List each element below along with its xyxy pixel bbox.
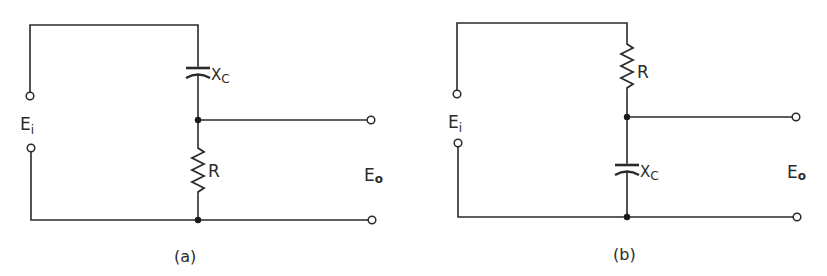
input-top-wire — [30, 25, 198, 92]
figure-caption-a: (a) — [174, 247, 196, 266]
output-terminal-bottom — [368, 216, 376, 224]
input-terminal-bottom — [454, 139, 462, 147]
capacitive-reactance-label: XC — [211, 66, 230, 86]
junction-node-top — [195, 117, 201, 123]
circuit-a: Ei XC R Eo (a) — [20, 25, 383, 266]
rc-circuit-figure: Ei XC R Eo (a) Ei R — [0, 0, 827, 276]
resistance-label: R — [208, 161, 220, 181]
output-voltage-label: Eo — [787, 162, 806, 183]
capacitive-reactance-label: XC — [640, 163, 659, 183]
junction-node-bottom — [195, 217, 201, 223]
input-voltage-label: Ei — [20, 114, 34, 137]
resistor-icon — [621, 44, 633, 88]
ground-wire — [458, 147, 793, 217]
output-terminal-top — [367, 116, 375, 124]
junction-node-top — [624, 114, 630, 120]
input-top-wire — [457, 23, 627, 90]
output-terminal-top — [792, 113, 800, 121]
input-terminal-bottom — [27, 144, 35, 152]
input-terminal-top — [26, 92, 34, 100]
circuit-b: Ei R XC Eo (b) — [448, 23, 806, 264]
resistor-icon — [192, 148, 204, 192]
junction-node-bottom — [624, 214, 630, 220]
output-voltage-label: Eo — [364, 165, 383, 186]
figure-caption-b: (b) — [613, 245, 636, 264]
output-terminal-bottom — [793, 213, 801, 221]
input-terminal-top — [453, 90, 461, 98]
input-voltage-label: Ei — [448, 112, 462, 135]
resistance-label: R — [637, 62, 649, 82]
